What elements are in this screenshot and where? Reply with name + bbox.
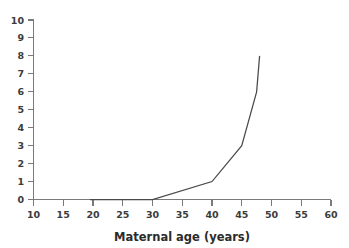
y-tick-label-5: 5 — [17, 104, 24, 115]
data-series-line — [90, 56, 260, 200]
y-tick-label-3: 3 — [17, 140, 24, 151]
y-tick-label-1: 1 — [17, 176, 24, 187]
y-tick-label-9: 9 — [17, 32, 24, 43]
x-tick-label-15: 15 — [57, 209, 70, 220]
y-axis-ticks — [28, 20, 34, 200]
x-axis-ticks — [34, 200, 332, 206]
y-axis-tick-labels: 10 9 8 7 6 5 4 3 2 1 0 — [11, 15, 25, 206]
x-axis-title: Maternal age (years) — [114, 230, 250, 244]
chart-figure: 10 9 8 7 6 5 4 3 2 1 0 10 15 — [0, 0, 349, 248]
x-tick-label-50: 50 — [265, 209, 279, 220]
y-tick-label-6: 6 — [17, 86, 24, 97]
x-tick-label-45: 45 — [235, 209, 248, 220]
x-tick-label-55: 55 — [295, 209, 308, 220]
maternal-age-line-chart: 10 9 8 7 6 5 4 3 2 1 0 10 15 — [0, 0, 349, 248]
x-tick-label-25: 25 — [116, 209, 129, 220]
y-tick-label-7: 7 — [17, 68, 24, 79]
y-tick-label-10: 10 — [11, 15, 25, 26]
x-axis-tick-labels: 10 15 20 25 30 35 40 45 50 55 60 — [27, 209, 338, 220]
y-tick-label-4: 4 — [17, 122, 24, 133]
y-tick-label-2: 2 — [17, 158, 24, 169]
x-tick-label-35: 35 — [176, 209, 189, 220]
y-tick-label-0: 0 — [17, 194, 24, 205]
x-tick-label-40: 40 — [205, 209, 219, 220]
x-tick-label-20: 20 — [86, 209, 100, 220]
x-tick-label-10: 10 — [27, 209, 41, 220]
y-tick-label-8: 8 — [17, 50, 24, 61]
x-tick-label-30: 30 — [146, 209, 160, 220]
x-tick-label-60: 60 — [324, 209, 338, 220]
